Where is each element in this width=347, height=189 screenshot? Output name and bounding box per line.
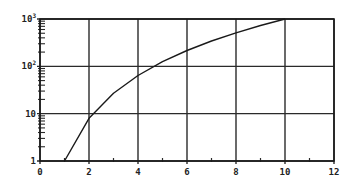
log-line-chart: 024681012 110102103 [0,0,347,189]
x-axis-labels: 024681012 [37,167,339,177]
x-tick-label: 6 [184,167,189,177]
x-tick-label: 2 [86,167,91,177]
x-tick-label: 8 [233,167,238,177]
y-axis-labels: 110102103 [22,12,37,166]
data-line [65,19,286,161]
y-tick-label: 10 [25,109,36,119]
x-tick-label: 12 [329,167,340,177]
y-tick-label: 102 [22,59,37,71]
x-tick-label: 0 [37,167,42,177]
grid-lines [37,19,334,164]
x-tick-label: 4 [135,167,141,177]
y-tick-label: 103 [22,12,37,24]
y-tick-label: 1 [31,156,36,166]
minor-ticks [38,21,310,162]
x-tick-label: 10 [280,167,291,177]
